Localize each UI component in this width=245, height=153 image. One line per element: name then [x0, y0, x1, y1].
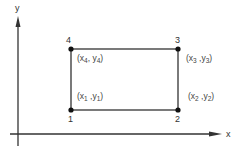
y-axis-arrow-icon: [16, 16, 21, 27]
node-1-number: 1: [68, 114, 73, 124]
diagram-canvas: [0, 0, 245, 153]
x-axis-label: x: [226, 129, 231, 139]
node-4-number: 4: [66, 35, 71, 45]
node-1-coordinates: (x1 ,y1): [77, 91, 103, 104]
y-axis-label: y: [15, 3, 20, 13]
node-2-coordinates: (x2 ,y2): [188, 91, 214, 104]
node-4-coordinates: (x4, y4): [77, 53, 103, 66]
node-2-number: 2: [175, 114, 180, 124]
node-4-dot: [68, 46, 73, 51]
x-axis-arrow-icon: [209, 132, 222, 137]
node-3-coordinates: (x3 ,y3): [186, 53, 212, 66]
node-3-number: 3: [175, 35, 180, 45]
node-2-dot: [175, 107, 180, 112]
node-1-dot: [68, 107, 73, 112]
node-3-dot: [175, 46, 180, 51]
